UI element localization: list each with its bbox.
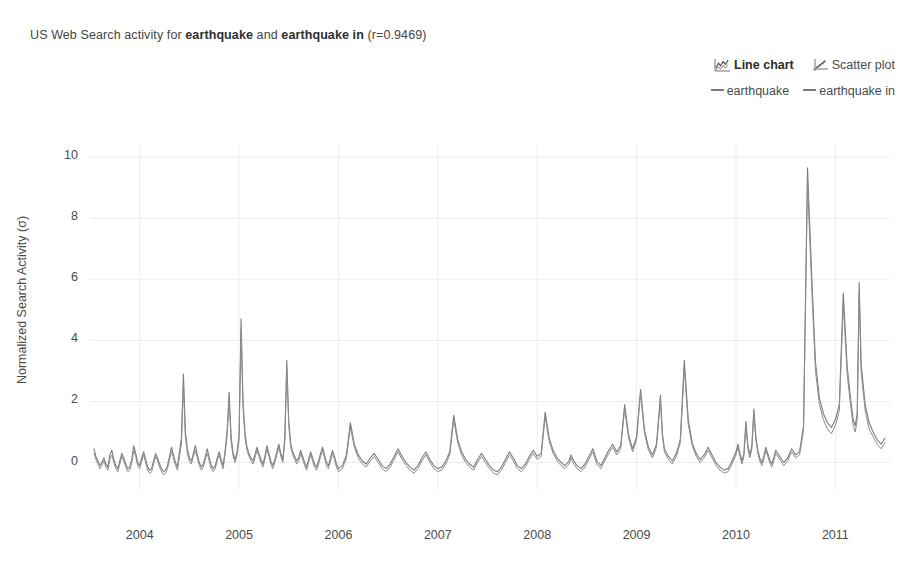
x-axis-tick-label: 2011 bbox=[805, 528, 865, 542]
x-axis-tick-label: 2004 bbox=[110, 528, 170, 542]
tab-scatter-plot-label: Scatter plot bbox=[832, 58, 895, 72]
line-chart-icon bbox=[714, 58, 731, 72]
x-axis-tick-label: 2009 bbox=[607, 528, 667, 542]
legend-label-series-a: earthquake bbox=[727, 84, 790, 98]
chart-container: US Web Search activity for earthquake an… bbox=[0, 0, 915, 581]
x-axis-tick-label: 2005 bbox=[209, 528, 269, 542]
tab-line-chart[interactable]: Line chart bbox=[714, 58, 794, 72]
legend-item-series-b[interactable]: earthquake in bbox=[803, 84, 895, 98]
legend-label-series-b: earthquake in bbox=[819, 84, 895, 98]
legend-item-series-a[interactable]: earthquake bbox=[711, 84, 790, 98]
x-axis-tick-label: 2007 bbox=[408, 528, 468, 542]
legend-swatch-series-a bbox=[711, 89, 724, 91]
series-line-b bbox=[94, 182, 885, 475]
plot-area bbox=[90, 145, 890, 490]
y-axis-tick-label: 4 bbox=[50, 331, 78, 345]
y-axis-tick-label: 10 bbox=[50, 148, 78, 162]
y-axis-tick-label: 0 bbox=[50, 454, 78, 468]
series-line-a bbox=[94, 168, 885, 472]
y-axis-tick-label: 6 bbox=[50, 270, 78, 284]
x-axis-tick-label: 2010 bbox=[706, 528, 766, 542]
plot-svg bbox=[90, 145, 890, 490]
y-axis-tick-label: 8 bbox=[50, 209, 78, 223]
series-legend: earthquake earthquake in bbox=[711, 84, 895, 98]
title-prefix: US Web Search activity for bbox=[30, 28, 185, 42]
y-axis-label: Normalized Search Activity (σ) bbox=[15, 216, 29, 384]
gridlines bbox=[90, 145, 890, 490]
scatter-plot-icon bbox=[812, 58, 829, 72]
x-axis-tick-label: 2006 bbox=[308, 528, 368, 542]
legend-swatch-series-b bbox=[803, 89, 816, 91]
title-term-a: earthquake bbox=[185, 28, 253, 42]
title-correlation: (r=0.9469) bbox=[364, 28, 427, 42]
chart-mode-legend: Line chart Scatter plot bbox=[714, 58, 895, 72]
tab-scatter-plot[interactable]: Scatter plot bbox=[812, 58, 895, 72]
x-axis-tick-label: 2008 bbox=[507, 528, 567, 542]
title-conjunction: and bbox=[253, 28, 281, 42]
tab-line-chart-label: Line chart bbox=[734, 58, 794, 72]
page-title: US Web Search activity for earthquake an… bbox=[30, 28, 427, 42]
y-axis-tick-label: 2 bbox=[50, 392, 78, 406]
series-lines bbox=[94, 168, 885, 475]
title-term-b: earthquake in bbox=[281, 28, 364, 42]
